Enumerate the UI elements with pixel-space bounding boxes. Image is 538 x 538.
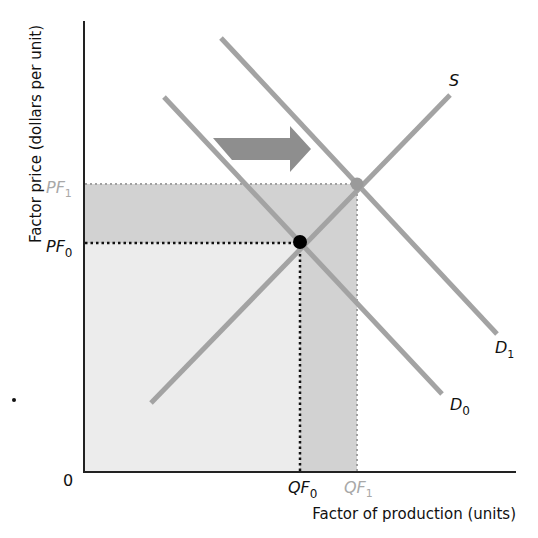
pf0-label: PF0 xyxy=(46,237,73,260)
initial-equilibrium-point xyxy=(293,235,307,249)
qf0-label: QF0 xyxy=(288,478,317,501)
y-axis-label: Factor price (dollars per unit) xyxy=(27,25,45,243)
d1-label: D1 xyxy=(495,338,514,361)
x-axis-label: Factor of production (units) xyxy=(312,505,516,523)
factor-market-chart: Factor price (dollars per unit) PF1 PF0 … xyxy=(0,0,538,538)
new-equilibrium-point xyxy=(351,178,364,191)
pf1-label: PF1 xyxy=(46,178,72,200)
d0-label: D0 xyxy=(450,395,470,418)
supply-label: S xyxy=(449,71,459,90)
stray-dot xyxy=(12,398,16,402)
origin-label: 0 xyxy=(63,471,73,490)
qf1-label: QF1 xyxy=(344,478,373,500)
